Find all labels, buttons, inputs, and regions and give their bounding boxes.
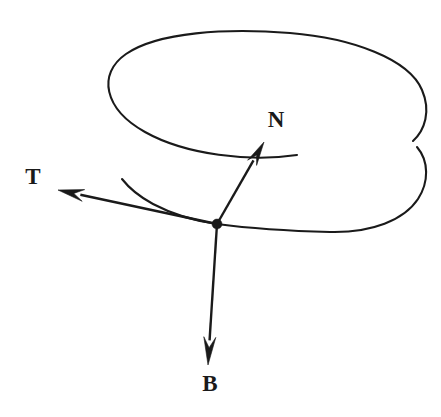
helix-lower-turn-left-tail xyxy=(122,179,217,224)
tangent-vector-label: T xyxy=(25,165,40,188)
binormal-vector-shaft xyxy=(210,224,217,340)
normal-vector-shaft xyxy=(217,160,253,224)
helix-upper-turn xyxy=(108,31,426,158)
normal-vector-arrowhead xyxy=(248,142,264,165)
tangent-vector-shaft xyxy=(80,195,217,224)
binormal-vector-arrowhead xyxy=(204,337,216,365)
frenet-frame-figure: T N B xyxy=(0,0,441,417)
normal-vector-label: N xyxy=(268,108,285,131)
point-on-curve-dot xyxy=(212,219,222,229)
diagram-canvas xyxy=(0,0,441,417)
binormal-vector-label: B xyxy=(202,372,217,395)
